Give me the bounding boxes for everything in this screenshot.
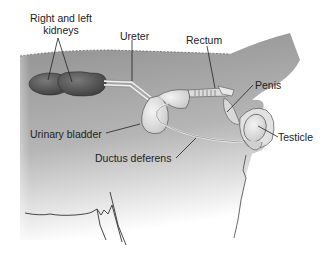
- label-ureter: Ureter: [120, 30, 149, 42]
- label-kidneys: Right and left kidneys: [30, 12, 92, 36]
- label-penis: Penis: [255, 79, 281, 91]
- label-ductus-deferens: Ductus deferens: [95, 152, 171, 164]
- label-kidneys-line2: kidneys: [30, 24, 92, 36]
- left-kidney: [58, 72, 106, 96]
- label-kidneys-line1: Right and left: [30, 12, 92, 24]
- label-testicle: Testicle: [278, 131, 313, 143]
- label-urinary-bladder: Urinary bladder: [30, 128, 102, 140]
- label-rectum: Rectum: [186, 34, 222, 46]
